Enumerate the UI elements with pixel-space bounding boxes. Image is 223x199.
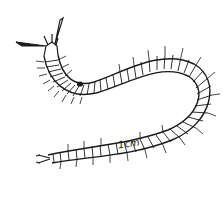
worm-tail xyxy=(36,155,50,163)
worm-illustration: 1cm xyxy=(0,0,223,199)
worm-head xyxy=(16,18,83,86)
worm-drawing xyxy=(0,0,223,199)
worm-bristles xyxy=(36,46,220,169)
